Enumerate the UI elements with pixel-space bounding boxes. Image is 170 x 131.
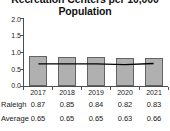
bar-2018	[58, 57, 76, 86]
table-row-average: Average 0.65 0.65 0.65 0.63 0.66	[0, 113, 170, 126]
table-cell-average-2021: 0.66	[141, 113, 167, 125]
x-category-label-2017: 2017	[25, 88, 51, 98]
x-category-label-2020: 2020	[112, 88, 138, 98]
table-cell-raleigh-2020: 0.82	[112, 99, 138, 111]
table-cell-raleigh-2017: 0.87	[25, 99, 51, 111]
table-row-label-raleigh: Raleigh	[1, 99, 26, 111]
y-tick-mark-1-0	[20, 52, 23, 53]
y-tick-label-2-0: 2.0	[0, 16, 21, 23]
chart-figure: Recreation Centers per 10,000 Population…	[0, 0, 170, 131]
data-table: Raleigh 0.87 0.85 0.84 0.82 0.83 Average…	[0, 99, 170, 131]
table-cell-raleigh-2018: 0.85	[54, 99, 80, 111]
x-category-label-2018: 2018	[54, 88, 80, 98]
bar-2019	[87, 57, 105, 86]
plot-area: 2.0 1.5 1.0 0.5 0.0	[0, 16, 170, 92]
bar-series-raleigh	[24, 18, 168, 86]
y-tick-mark-1-5	[20, 35, 23, 36]
x-axis-category-labels: 2017 2018 2019 2020 2021	[0, 88, 170, 99]
table-cell-average-2020: 0.63	[112, 113, 138, 125]
table-cell-average-2019: 0.65	[83, 113, 109, 125]
chart-title: Recreation Centers per 10,000 Population	[0, 0, 170, 17]
bar-2021	[145, 58, 163, 86]
x-category-label-2021: 2021	[141, 88, 167, 98]
y-tick-mark-0-5	[20, 69, 23, 70]
table-cell-average-2018: 0.65	[54, 113, 80, 125]
x-axis-line	[23, 86, 168, 87]
bar-2020	[116, 58, 134, 86]
y-tick-label-0-5: 0.5	[0, 66, 21, 73]
y-axis-tick-labels: 2.0 1.5 1.0 0.5 0.0	[0, 16, 21, 88]
x-category-label-2019: 2019	[83, 88, 109, 98]
table-row-raleigh: Raleigh 0.87 0.85 0.84 0.82 0.83	[0, 99, 170, 112]
bar-2017	[29, 56, 47, 86]
y-tick-label-1-0: 1.0	[0, 49, 21, 56]
table-cell-raleigh-2019: 0.84	[83, 99, 109, 111]
y-tick-mark-2-0	[20, 18, 23, 19]
table-cell-raleigh-2021: 0.83	[141, 99, 167, 111]
table-cell-average-2017: 0.65	[25, 113, 51, 125]
y-tick-label-1-5: 1.5	[0, 32, 21, 39]
